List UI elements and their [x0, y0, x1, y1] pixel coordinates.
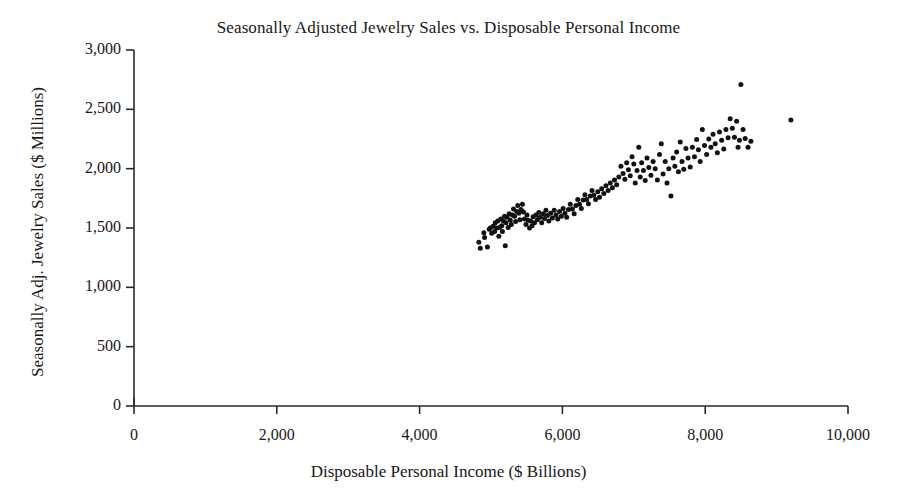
- scatter-point: [657, 152, 662, 157]
- scatter-point: [734, 119, 739, 124]
- scatter-point: [601, 191, 606, 196]
- scatter-point: [661, 172, 666, 177]
- scatter-point: [631, 161, 636, 166]
- scatter-point: [663, 159, 668, 164]
- scatter-point: [610, 185, 615, 190]
- scatter-point: [694, 137, 699, 142]
- scatter-point: [606, 188, 611, 193]
- scatter-point: [700, 127, 705, 132]
- x-tick-label: 10,000: [808, 426, 888, 444]
- scatter-point: [590, 188, 595, 193]
- scatter-point: [539, 220, 544, 225]
- scatter-point: [690, 145, 695, 150]
- y-tick-label: 3,000: [51, 40, 121, 58]
- scatter-point: [645, 155, 650, 160]
- scatter-point: [608, 180, 613, 185]
- scatter-point: [572, 211, 577, 216]
- scatter-point: [496, 234, 501, 239]
- scatter-point: [485, 244, 490, 249]
- scatter-point: [500, 229, 505, 234]
- scatter-point: [715, 150, 720, 155]
- scatter-point: [597, 195, 602, 200]
- scatter-point: [616, 174, 621, 179]
- scatter-point: [788, 118, 793, 123]
- y-tick-label: 1,000: [51, 277, 121, 295]
- scatter-point: [738, 82, 743, 87]
- scatter-point: [672, 164, 677, 169]
- scatter-point: [639, 160, 644, 165]
- scatter-point: [513, 219, 518, 224]
- scatter-point: [561, 206, 566, 211]
- scatter-point: [717, 129, 722, 134]
- scatter-point: [624, 160, 629, 165]
- scatter-point: [655, 177, 660, 182]
- scatter-point: [520, 202, 525, 207]
- scatter-point: [536, 210, 541, 215]
- scatter-point: [748, 139, 753, 144]
- x-tick-label: 2,000: [237, 426, 317, 444]
- scatter-point: [481, 230, 486, 235]
- scatter-point: [517, 217, 522, 222]
- scatter-point: [482, 235, 487, 240]
- scatter-point: [666, 166, 671, 171]
- scatter-point: [741, 127, 746, 132]
- scatter-point: [586, 201, 591, 206]
- scatter-point: [711, 132, 716, 137]
- y-tick-label: 2,500: [51, 99, 121, 117]
- scatter-point: [653, 166, 658, 171]
- scatter-point: [686, 155, 691, 160]
- scatter-point: [478, 246, 483, 251]
- scatter-point: [680, 159, 685, 164]
- scatter-point: [641, 168, 646, 173]
- scatter-point: [621, 171, 626, 176]
- axes: [126, 50, 848, 414]
- scatter-point: [570, 207, 575, 212]
- scatter-point: [713, 141, 718, 146]
- scatter-point: [683, 146, 688, 151]
- scatter-point: [582, 192, 587, 197]
- x-tick-label: 0: [94, 426, 174, 444]
- y-tick-label: 2,000: [51, 159, 121, 177]
- scatter-point: [579, 206, 584, 211]
- scatter-point: [704, 152, 709, 157]
- scatter-point: [643, 178, 648, 183]
- scatter-point: [636, 145, 641, 150]
- y-tick-label: 1,500: [51, 218, 121, 236]
- x-tick-label: 4,000: [380, 426, 460, 444]
- scatter-point: [708, 145, 713, 150]
- scatter-point: [633, 180, 638, 185]
- scatter-point: [630, 154, 635, 159]
- scatter-point: [659, 141, 664, 146]
- scatter-point: [476, 240, 481, 245]
- scatter-point: [746, 145, 751, 150]
- scatter-point: [622, 177, 627, 182]
- scatter-point: [635, 168, 640, 173]
- scatter-point: [692, 154, 697, 159]
- scatter-point: [665, 180, 670, 185]
- scatter-point: [509, 222, 514, 227]
- scatter-point: [737, 138, 742, 143]
- scatter-point: [564, 215, 569, 220]
- scatter-point: [651, 159, 656, 164]
- scatter-point: [676, 169, 681, 174]
- y-tick-label: 500: [51, 337, 121, 355]
- scatter-point: [706, 137, 711, 142]
- scatter-point: [728, 116, 733, 121]
- scatter-point: [719, 138, 724, 143]
- scatter-point: [721, 147, 726, 152]
- scatter-point: [614, 182, 619, 187]
- scatter-point: [512, 214, 517, 219]
- scatter-point: [499, 223, 504, 228]
- scatter-point: [698, 159, 703, 164]
- x-tick-label: 8,000: [665, 426, 745, 444]
- scatter-point: [575, 197, 580, 202]
- scatter-point: [723, 127, 728, 132]
- scatter-plot-area: [0, 0, 897, 499]
- scatter-point: [552, 208, 557, 213]
- scatter-point: [671, 155, 676, 160]
- scatter-point: [618, 164, 623, 169]
- scatter-point: [730, 126, 735, 131]
- x-tick-label: 6,000: [522, 426, 602, 444]
- scatter-point: [503, 243, 508, 248]
- scatter-point: [648, 173, 653, 178]
